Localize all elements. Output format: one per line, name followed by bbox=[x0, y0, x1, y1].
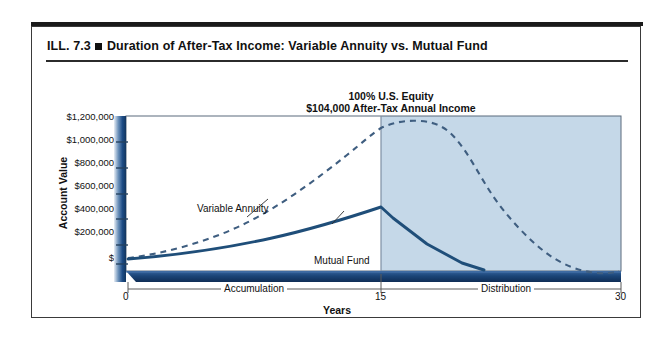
y-axis-gradient-bar bbox=[114, 116, 126, 282]
x-tick-label: 15 bbox=[375, 291, 386, 302]
phase-label-distribution: Distribution bbox=[478, 283, 534, 294]
x-tick-label: 30 bbox=[615, 291, 626, 302]
series-label-variable-annuity: Variable Annuity bbox=[197, 203, 269, 214]
plot-svg bbox=[32, 27, 642, 319]
illustration-figure: ILL. 7.3Duration of After-Tax Income: Va… bbox=[31, 26, 641, 318]
x-axis-title: Years bbox=[32, 304, 642, 316]
x-tick-label: 0 bbox=[123, 291, 129, 302]
chart-area: 100% U.S. Equity $104,000 After-Tax Annu… bbox=[32, 27, 642, 319]
phase-label-accumulation: Accumulation bbox=[221, 283, 287, 294]
baseline-bar bbox=[126, 271, 621, 282]
series-label-mutual-fund: Mutual Fund bbox=[314, 255, 370, 266]
distribution-shaded-region bbox=[381, 116, 621, 271]
